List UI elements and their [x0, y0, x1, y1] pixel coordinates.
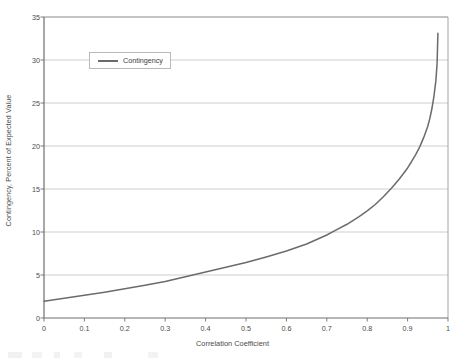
x-axis-title: Correlation Coefficient [0, 339, 465, 348]
chart-figure: Contingency, Percent of Expected Value 0… [0, 0, 465, 363]
data-series-contingency [44, 33, 438, 301]
scan-artifact [8, 352, 158, 358]
plot-area [0, 0, 465, 363]
series-line-contingency [44, 33, 438, 301]
chart-legend: Contingency [89, 52, 171, 69]
legend-label-contingency: Contingency [123, 56, 163, 65]
legend-swatch-contingency [98, 60, 118, 62]
